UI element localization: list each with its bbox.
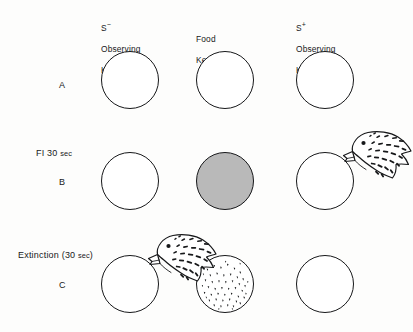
key-a-s-plus-observing[interactable]: [296, 51, 354, 109]
row-condition-c-unit: sec: [78, 251, 90, 260]
superscript-minus: −: [107, 21, 111, 28]
key-b-s-minus-observing[interactable]: [101, 152, 159, 210]
row-condition-b-main: FI 30: [36, 148, 60, 158]
key-c-s-minus-observing[interactable]: [101, 255, 159, 313]
row-condition-c-suffix: ): [90, 250, 93, 260]
row-condition-c: Extinction (30 sec): [18, 250, 93, 260]
column-header-symbol: S−: [101, 23, 111, 33]
key-c-s-plus-observing[interactable]: [296, 255, 354, 313]
row-condition-c-prefix: Extinction (30: [18, 250, 78, 260]
key-c-food-speckled[interactable]: [196, 255, 254, 313]
column-header-line-1: Food: [196, 34, 216, 44]
key-b-food-lit[interactable]: [196, 152, 254, 210]
key-b-s-plus-observing[interactable]: [296, 152, 354, 210]
column-header-symbol: S+: [296, 23, 306, 33]
row-condition-b-unit: sec: [60, 149, 72, 158]
row-condition-b: FI 30 sec: [36, 148, 72, 158]
row-label-a: A: [59, 80, 65, 90]
key-a-food[interactable]: [196, 51, 254, 109]
speckle-texture: [197, 256, 253, 312]
key-a-s-minus-observing[interactable]: [101, 51, 159, 109]
superscript-plus: +: [302, 21, 306, 28]
row-label-c: C: [59, 280, 66, 290]
pigeon-eye: [361, 141, 365, 145]
row-label-b: B: [59, 177, 65, 187]
figure-canvas: S− Observing Key Food Key S+ Observing K…: [0, 0, 413, 332]
pigeon-eye: [166, 244, 170, 248]
